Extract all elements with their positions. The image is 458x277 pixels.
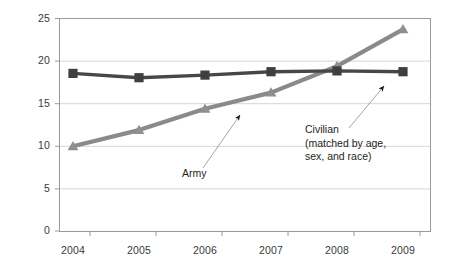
series-civilian-marker-2004 xyxy=(68,69,77,78)
y-axis-tick-label-5: 5 xyxy=(24,182,50,194)
y-axis-tick-label-15: 15 xyxy=(24,97,50,109)
annotation-army-line-1: Army xyxy=(182,167,207,181)
series-civilian-marker-2007 xyxy=(266,67,275,76)
y-tick-marks xyxy=(55,19,59,232)
annotation-civilian-line-3: sex, and race) xyxy=(305,150,386,164)
annotation-civilian: Civilian (matched by age, sex, and race) xyxy=(305,123,386,164)
x-axis-tick-label-2009: 2009 xyxy=(377,244,429,256)
annotation-civilian-line-2: (matched by age, xyxy=(305,137,386,151)
x-axis-tick-label-2008: 2008 xyxy=(311,244,363,256)
line-chart-plot xyxy=(0,0,458,277)
chart-container: 25 20 15 10 5 0 2004 2005 2006 2007 2008… xyxy=(0,0,458,277)
x-axis-tick-label-2004: 2004 xyxy=(47,244,99,256)
y-axis-tick-label-0: 0 xyxy=(24,224,50,236)
x-axis-tick-label-2006: 2006 xyxy=(179,244,231,256)
series-civilian-marker-2009 xyxy=(398,67,407,76)
annotation-civilian-line-1: Civilian xyxy=(305,123,386,137)
x-axis-tick-label-2007: 2007 xyxy=(245,244,297,256)
annotation-army: Army xyxy=(182,167,207,181)
series-civilian-marker-2005 xyxy=(134,73,143,82)
series-civilian-marker-2006 xyxy=(200,71,209,80)
y-axis-tick-label-25: 25 xyxy=(24,12,50,24)
x-axis-tick-label-2005: 2005 xyxy=(113,244,165,256)
series-civilian-marker-2008 xyxy=(332,66,341,75)
y-axis-tick-label-20: 20 xyxy=(24,54,50,66)
y-axis-tick-label-10: 10 xyxy=(24,139,50,151)
